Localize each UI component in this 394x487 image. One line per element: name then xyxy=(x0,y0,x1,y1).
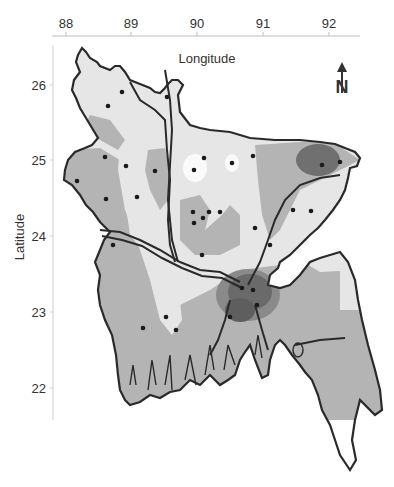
x-tick-label: 88 xyxy=(59,16,73,31)
bangladesh-contour-map: 88 89 90 91 92 26 25 24 23 22 Longitude … xyxy=(0,0,394,487)
x-tick-label: 91 xyxy=(256,16,270,31)
y-tick-label: 26 xyxy=(32,78,46,93)
x-axis-ticks: 88 89 90 91 92 xyxy=(59,16,336,36)
y-tick-label: 23 xyxy=(32,305,46,320)
y-axis-ticks: 26 25 24 23 22 xyxy=(32,78,53,396)
x-axis-title: Longitude xyxy=(178,51,235,66)
x-tick-label: 90 xyxy=(190,16,204,31)
y-tick-label: 22 xyxy=(32,381,46,396)
north-label: N xyxy=(336,77,349,97)
north-arrow-icon: N xyxy=(336,62,349,97)
y-tick-label: 24 xyxy=(32,229,46,244)
contour-shading xyxy=(0,0,394,487)
y-tick-label: 25 xyxy=(32,153,46,168)
x-tick-label: 89 xyxy=(124,16,138,31)
y-axis-title: Latitude xyxy=(12,214,27,260)
x-tick-label: 92 xyxy=(322,16,336,31)
